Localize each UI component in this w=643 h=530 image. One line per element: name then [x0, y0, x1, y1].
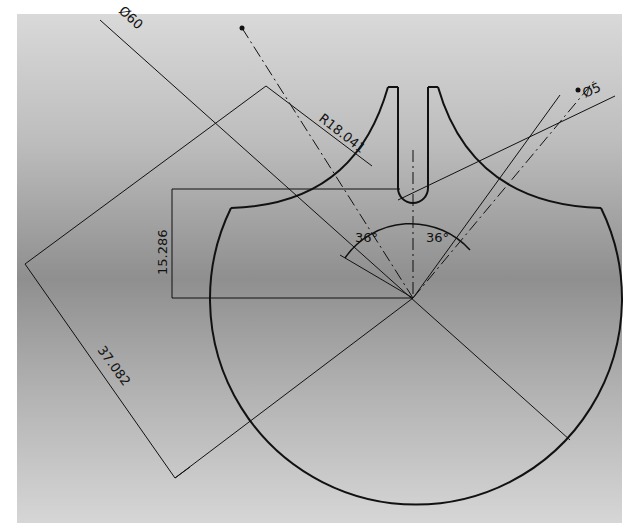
- centerline-left: [242, 28, 413, 298]
- dia60-leader: [100, 20, 570, 440]
- dim-37-line: [25, 264, 175, 478]
- dim-37-ext-bottom: [175, 467, 190, 478]
- technical-drawing: Ø60 Ø5 R18.041 15.286 37.082 36° 36°: [0, 0, 643, 530]
- r18-leader: [266, 86, 372, 166]
- dim-angle-right-label: 36°: [426, 230, 449, 245]
- outer-circle: [210, 208, 622, 505]
- right-cutout-arc: [438, 87, 601, 208]
- dim-15-label: 15.286: [155, 230, 170, 276]
- angle-right-line: [413, 95, 560, 298]
- dim-r18-label: R18.041: [316, 111, 368, 156]
- dim-angle-left-label: 36°: [355, 230, 378, 245]
- centerline-right: [413, 80, 595, 298]
- slot: [398, 87, 428, 203]
- dim-37-ext-top: [25, 86, 266, 264]
- centerline-dot-left: [240, 26, 245, 31]
- dim-37-label: 37.082: [95, 343, 134, 389]
- dim-dia60-label: Ø60: [116, 3, 146, 32]
- angle-left-line: [340, 255, 413, 298]
- dim-dia5-label: Ø5: [580, 80, 603, 101]
